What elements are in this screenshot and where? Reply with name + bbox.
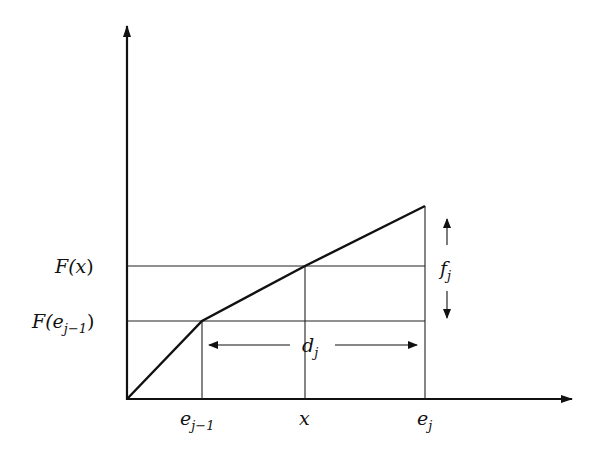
label-x: x (299, 407, 310, 429)
label-e-jm1: ej−1 (180, 407, 214, 433)
label-f-j: fj (438, 257, 451, 283)
label-F-e-jm1: F(ej−1) (31, 310, 94, 336)
diagram: F(x) F(ej−1) ej−1 x ej dj fj (0, 0, 601, 453)
function-curve (127, 206, 425, 399)
label-e-j: ej (417, 407, 432, 433)
label-d-j: dj (302, 334, 318, 360)
label-F-x: F(x) (54, 255, 94, 277)
